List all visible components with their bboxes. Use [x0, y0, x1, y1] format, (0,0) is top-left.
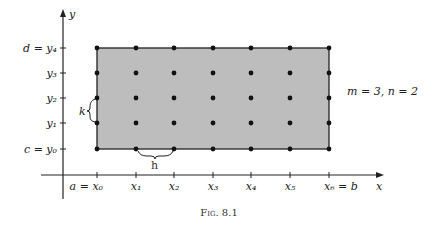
x-tick-label-5: x₅	[285, 180, 296, 193]
y-tick-label-4: d = y₄	[23, 42, 57, 55]
x-tick-label-4: x₄	[246, 180, 257, 193]
y-tick-label-3: y₃	[45, 67, 57, 80]
h-label: h	[151, 159, 158, 172]
k-brace-icon	[87, 99, 95, 122]
k-label: k	[79, 105, 86, 118]
x-tick-label-0: a = x₀	[70, 180, 104, 193]
x-tick-label-6: x₆ = b	[324, 180, 358, 193]
parameters-annotation: m = 3, n = 2	[347, 85, 418, 98]
x-axis-arrow-icon	[376, 172, 384, 178]
x-tick-label-2: x₂	[169, 180, 180, 193]
x-tick-label-3: x₃	[208, 180, 219, 193]
y-tick-label-1: y₁	[45, 117, 57, 130]
y-tick-label-0: c = y₀	[24, 143, 58, 156]
y-axis-arrow-icon	[60, 9, 66, 17]
y-tick-label-2: y₂	[45, 92, 57, 105]
grid-diagram: h k y x a = x₀ x₁ x₂ x₃ x₄ x₅ x₆ = b d =…	[0, 0, 439, 228]
x-axis-label: x	[376, 180, 383, 193]
figure-caption: Fig. 8.1	[200, 207, 238, 218]
y-axis-label: y	[68, 8, 76, 21]
h-brace-icon	[138, 151, 173, 159]
x-tick-label-1: x₁	[131, 180, 142, 193]
